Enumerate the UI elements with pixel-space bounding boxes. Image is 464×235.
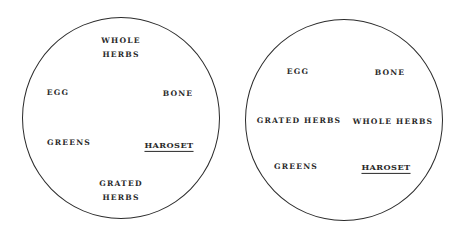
right-egg-label: EGG [287,68,309,76]
left-grated-herbs-line1: GRATED [99,180,143,188]
right-haroset-label: HAROSET [361,163,410,171]
left-whole-herbs-line2: HERBS [102,51,139,59]
right-grated-herbs-label: GRATED HERBS [257,117,342,125]
left-greens-label: GREENS [47,139,91,147]
right-greens-label: GREENS [274,163,318,171]
left-whole-herbs-line1: WHOLE [101,37,140,45]
left-egg-label: EGG [47,89,69,97]
left-plate-circle [22,17,220,219]
left-bone-label: BONE [163,90,194,98]
left-grated-herbs-line2: HERBS [102,194,139,202]
right-bone-label: BONE [375,69,406,77]
left-haroset-label: HAROSET [144,141,193,149]
right-whole-herbs-label: WHOLE HERBS [353,118,433,126]
